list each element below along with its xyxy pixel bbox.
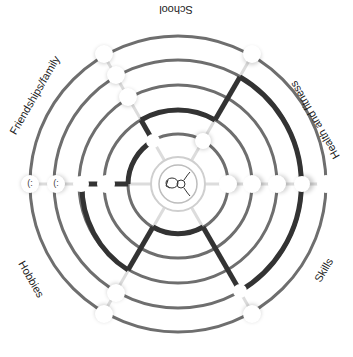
label-hobbies: Hobbies [16, 259, 47, 300]
radial-wellbeing-chart: :) :) School Health and fitness Skills H… [0, 0, 353, 357]
label-friends: Friendships/family [7, 53, 62, 136]
label-skills: Skills [312, 255, 335, 284]
center-hub [151, 157, 205, 211]
svg-text::): :) [53, 179, 59, 189]
label-school: School [159, 4, 193, 16]
svg-text::): :) [27, 179, 33, 189]
